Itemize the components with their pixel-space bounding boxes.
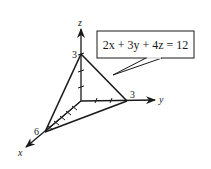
y-axis-label: y xyxy=(158,94,164,105)
z-axis-label: z xyxy=(77,17,82,28)
edge-z-y xyxy=(81,54,127,101)
trace-inner xyxy=(45,101,81,132)
callout-pointer xyxy=(113,58,162,75)
x-axis-label: x xyxy=(17,147,23,158)
y-axis xyxy=(81,100,155,101)
y-intercept-label: 3 xyxy=(130,89,135,100)
equation-callout: 2x + 3y + 4z = 12 xyxy=(97,31,194,75)
equation-label: 2x + 3y + 4z = 12 xyxy=(103,38,189,52)
x-intercept-label: 6 xyxy=(34,126,39,137)
z-intercept-label: 3 xyxy=(72,49,77,60)
plane-diagram: z y x 3 3 6 2x + 3y + 4z = 12 xyxy=(0,0,211,169)
